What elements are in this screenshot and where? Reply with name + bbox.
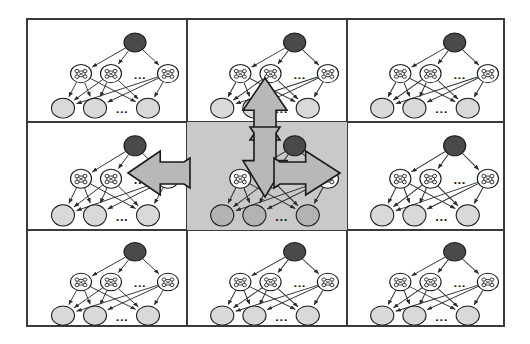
- network-edge: [438, 51, 448, 64]
- network-panel-bottom-left: ......: [28, 230, 187, 329]
- ellipsis-label: ...: [116, 210, 128, 223]
- bayesian-network-graph: ......: [347, 122, 507, 230]
- network-panel-bottom-center: ......: [187, 230, 347, 329]
- network-node-leaf-layer: [456, 205, 479, 226]
- network-edge: [278, 155, 288, 169]
- ellipsis-label: ...: [435, 103, 447, 116]
- network-layer-hidden-layer: ...: [230, 169, 339, 188]
- network-node-root-layer: [284, 136, 306, 156]
- bayesian-network-graph: ......: [187, 230, 347, 329]
- network-node-leaf-layer: [243, 306, 266, 325]
- network-node-leaf-layer: [211, 98, 234, 118]
- bayesian-network-graph: ......: [28, 230, 187, 329]
- ellipsis-label: ...: [454, 277, 466, 290]
- network-node-leaf-layer: [211, 205, 234, 226]
- network-layer-leaf-layer: ...: [211, 205, 320, 226]
- network-edge: [474, 188, 483, 204]
- network-node-leaf-layer: [211, 306, 234, 325]
- network-layer-hidden-layer: ...: [390, 273, 499, 291]
- network-edge: [438, 260, 448, 273]
- network-layer-hidden-layer: ...: [71, 65, 179, 83]
- network-edge: [154, 290, 163, 304]
- network-edge: [228, 82, 236, 96]
- network-edge: [118, 289, 138, 307]
- network-layer-leaf-layer: ...: [371, 98, 480, 118]
- network-node-leaf-layer: [296, 205, 319, 226]
- network-node-leaf-layer: [371, 205, 394, 226]
- network-edge: [302, 50, 318, 65]
- network-edge: [118, 81, 138, 99]
- ellipsis-label: ...: [275, 103, 287, 116]
- network-node-root-layer: [284, 33, 306, 52]
- ellipsis-label: ...: [294, 277, 306, 290]
- network-panel-middle-left: ......: [28, 122, 187, 230]
- network-edge: [462, 154, 478, 170]
- network-layer-root-layer: [124, 136, 146, 156]
- network-edge: [69, 290, 77, 304]
- network-edge: [118, 186, 138, 205]
- ellipsis-label: ...: [116, 103, 128, 116]
- network-panel-center: ......: [187, 122, 347, 230]
- network-edge: [314, 290, 323, 304]
- network-edge: [143, 259, 159, 274]
- network-node-leaf-layer: [52, 306, 75, 325]
- ellipsis-label: ...: [293, 69, 305, 82]
- network-layer-leaf-layer: ...: [52, 205, 160, 226]
- bayesian-network-graph: ......: [347, 230, 507, 329]
- network-layer-root-layer: [124, 33, 146, 52]
- network-node-leaf-layer: [243, 98, 266, 118]
- ellipsis-label: ...: [435, 210, 447, 223]
- network-node-leaf-layer: [84, 306, 107, 325]
- network-layer-root-layer: [444, 243, 466, 261]
- network-edge: [278, 289, 298, 307]
- network-layer-leaf-layer: ...: [211, 98, 320, 118]
- network-edge: [143, 50, 159, 65]
- figure-frame: ........................................…: [26, 18, 505, 327]
- network-node-root-layer: [444, 33, 466, 52]
- network-node-root-layer: [444, 136, 466, 156]
- network-node-leaf-layer: [403, 98, 426, 118]
- ellipsis-label: ...: [453, 69, 465, 82]
- network-panel-top-left: ......: [28, 20, 187, 122]
- network-node-leaf-layer: [243, 205, 266, 226]
- network-edge: [143, 154, 159, 170]
- bayesian-network-graph: ......: [187, 122, 347, 230]
- network-layer-hidden-layer: ...: [390, 169, 499, 188]
- network-layer-hidden-layer: ...: [230, 65, 339, 83]
- ellipsis-label: ...: [435, 311, 447, 324]
- network-layer-leaf-layer: ...: [52, 98, 160, 118]
- network-edge: [388, 290, 396, 304]
- network-node-leaf-layer: [296, 98, 319, 118]
- network-edge: [228, 290, 236, 304]
- ellipsis-label: ...: [293, 174, 305, 187]
- network-edge: [278, 51, 288, 64]
- network-edge: [228, 188, 236, 203]
- network-node-leaf-layer: [456, 306, 479, 325]
- network-edge: [278, 186, 298, 205]
- network-node-leaf-layer: [137, 306, 160, 325]
- network-edge: [154, 82, 163, 97]
- network-edge: [474, 290, 483, 304]
- network-edge: [118, 155, 128, 169]
- bayesian-network-graph: ......: [28, 20, 187, 122]
- network-node-root-layer: [444, 243, 466, 261]
- network-layer-hidden-layer: ...: [390, 65, 499, 83]
- network-layer-root-layer: [284, 136, 306, 156]
- ellipsis-label: ...: [275, 311, 287, 324]
- network-node-leaf-layer: [403, 306, 426, 325]
- network-node-leaf-layer: [456, 98, 479, 118]
- network-edge: [438, 186, 458, 205]
- network-panel-top-center: ......: [187, 20, 347, 122]
- network-layer-hidden-layer: ...: [230, 273, 339, 291]
- network-layer-root-layer: [284, 243, 306, 261]
- network-panel-middle-right: ......: [347, 122, 507, 230]
- network-edge: [314, 188, 323, 204]
- network-edge: [154, 188, 163, 204]
- network-layer-hidden-layer: ...: [71, 169, 179, 188]
- network-edge: [462, 50, 478, 65]
- network-node-leaf-layer: [137, 98, 160, 118]
- network-panel-top-right: ......: [347, 20, 507, 122]
- network-node-root-layer: [124, 33, 146, 52]
- network-edge: [438, 81, 458, 99]
- ellipsis-label: ...: [134, 69, 146, 82]
